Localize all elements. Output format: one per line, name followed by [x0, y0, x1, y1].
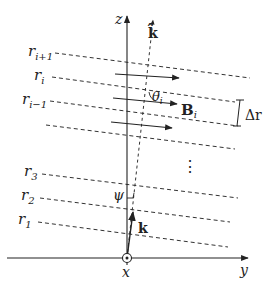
label-r-i: ri	[34, 66, 44, 86]
b-arrow-lower	[111, 122, 172, 128]
delta-r-bracket	[233, 100, 244, 126]
layer-line-r-1	[38, 222, 228, 247]
layer-line-r-3	[42, 174, 238, 198]
delta-r-label: Δr	[245, 107, 262, 123]
z-axis-label: z	[114, 11, 123, 27]
field-layer-diagram: ⋮ z y x k̂ k Bi θi ψ Δr ri+1 ri ri−1 r3 …	[0, 0, 273, 284]
ellipsis: ⋮	[182, 157, 198, 176]
b-field-arrows	[111, 74, 179, 128]
psi-label: ψ	[113, 187, 125, 203]
theta-label: θi	[152, 89, 163, 106]
label-r-3: r3	[24, 162, 38, 182]
layer-line-r-im1	[50, 101, 238, 126]
layer-line-r-i	[52, 77, 235, 102]
label-r-ip1: ri+1	[28, 42, 53, 62]
label-r-2: r2	[21, 186, 35, 206]
label-r-1: r1	[18, 210, 32, 230]
layer-line-r-ip1	[55, 53, 250, 78]
layer-line-r-2	[40, 198, 230, 222]
b-arrow-middle	[113, 98, 177, 104]
b-field-label: Bi	[181, 101, 197, 120]
k-label: k	[138, 220, 148, 236]
y-axis-label: y	[239, 262, 249, 278]
layer-lines	[38, 53, 250, 247]
k-vector	[127, 212, 133, 258]
label-r-im1: ri−1	[22, 90, 47, 110]
k-hat-label: k̂	[147, 23, 158, 41]
psi-angle-marker	[127, 193, 134, 198]
x-axis-label: x	[122, 264, 130, 280]
